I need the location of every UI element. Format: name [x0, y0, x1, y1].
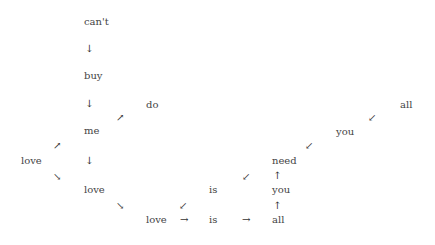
arrow-up-right-icon: ↗	[116, 112, 124, 124]
arrow-up-icon: ↑	[273, 170, 281, 182]
arrow-right-icon: →	[180, 214, 188, 226]
arrow-down-icon: ↓	[85, 155, 93, 167]
word-do: do	[146, 99, 158, 111]
arrow-down-left-icon: ↙	[179, 200, 187, 212]
arrow-right-icon: →	[242, 214, 250, 226]
word-love-mid: love	[84, 184, 105, 196]
arrow-down-left-icon: ↙	[368, 112, 376, 124]
word-love-bottom: love	[146, 214, 167, 226]
word-you-bottom: you	[272, 184, 290, 196]
arrow-down-right-icon: ↘	[116, 200, 124, 212]
arrow-down-icon: ↓	[85, 98, 93, 110]
arrow-up-right-icon: ↗	[53, 140, 61, 152]
arrow-down-left-icon: ↙	[305, 140, 313, 152]
word-need: need	[272, 155, 297, 167]
word-cant: can't	[84, 16, 109, 28]
arrow-up-icon: ↑	[273, 200, 281, 212]
word-all-upper: all	[400, 99, 412, 111]
word-is-mid: is	[209, 184, 217, 196]
arrow-down-right-icon: ↘	[53, 171, 61, 183]
word-is-bottom: is	[209, 214, 217, 226]
arrow-down-left-icon: ↙	[242, 171, 250, 183]
word-all-bottom: all	[272, 214, 284, 226]
word-love-left: love	[21, 155, 42, 167]
arrow-down-icon: ↓	[85, 43, 93, 55]
word-you-upper: you	[336, 126, 354, 138]
word-me: me	[84, 125, 99, 137]
word-buy: buy	[84, 70, 103, 82]
